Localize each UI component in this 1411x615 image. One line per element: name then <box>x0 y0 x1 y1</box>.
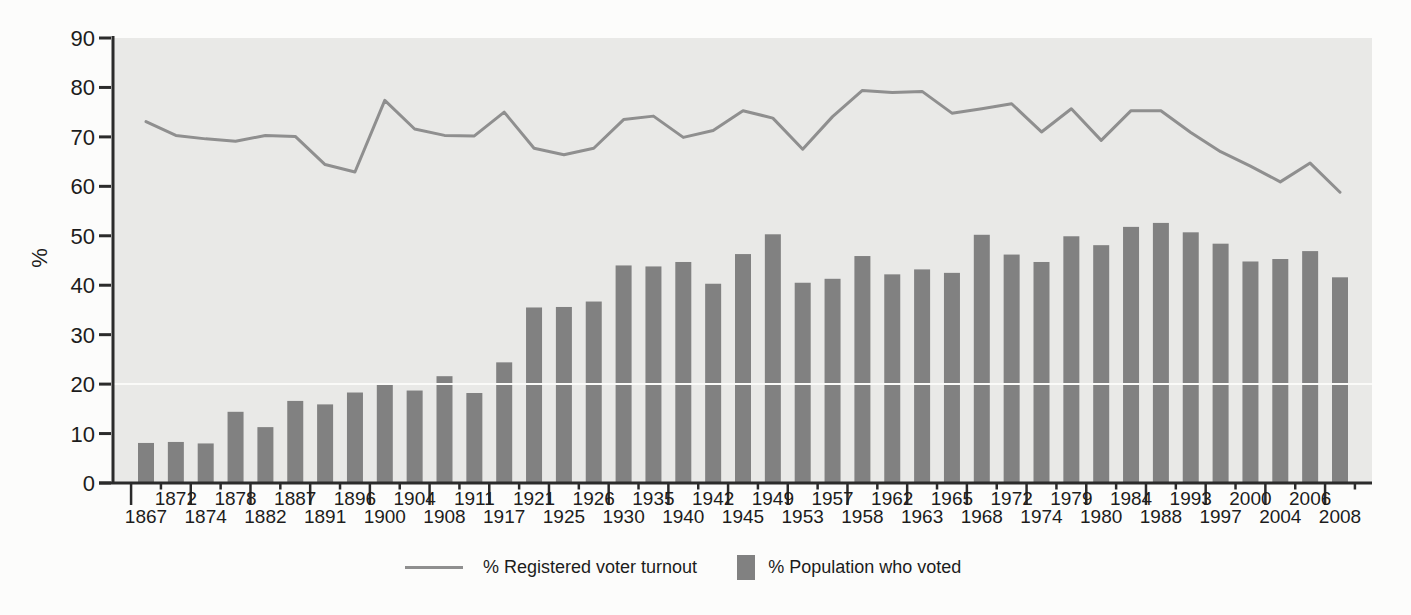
y-tick-label-60: 60 <box>71 174 95 199</box>
turnout-chart-canvas: 0102030405060708090186718721874187818821… <box>0 0 1411 615</box>
x-label-1925: 1925 <box>543 506 585 527</box>
bar-1908 <box>437 376 453 483</box>
bar-1963 <box>914 269 930 483</box>
bar-1945 <box>735 254 751 483</box>
chart-legend: % Registered voter turnout % Population … <box>405 553 961 581</box>
bar-1867 <box>138 443 154 483</box>
bar-1904 <box>407 391 423 483</box>
x-label-1980: 1980 <box>1080 506 1122 527</box>
bar-1958 <box>854 256 870 483</box>
bar-1935 <box>645 266 661 483</box>
y-tick-label-80: 80 <box>71 75 95 100</box>
x-label-1958: 1958 <box>841 506 883 527</box>
bar-1949 <box>765 234 781 483</box>
y-tick-label-70: 70 <box>71 125 95 150</box>
bar-1997 <box>1213 244 1229 483</box>
bar-2008 <box>1332 277 1348 483</box>
bar-1921 <box>526 307 542 483</box>
bar-1968 <box>974 235 990 483</box>
x-label-1988: 1988 <box>1140 506 1182 527</box>
x-label-2004: 2004 <box>1259 506 1302 527</box>
bar-2000 <box>1242 261 1258 483</box>
y-tick-label-50: 50 <box>71 224 95 249</box>
bar-1930 <box>616 265 632 483</box>
x-label-1908: 1908 <box>423 506 465 527</box>
bar-1988 <box>1153 223 1169 483</box>
bar-1874 <box>198 443 214 483</box>
bar-series-swatch-icon <box>737 555 755 580</box>
bar-1980 <box>1093 245 1109 483</box>
bar-1972 <box>1004 255 1020 483</box>
x-label-1874: 1874 <box>185 506 228 527</box>
x-label-1867: 1867 <box>125 506 167 527</box>
bar-1878 <box>228 412 244 483</box>
bar-1953 <box>795 283 811 483</box>
bar-1925 <box>556 307 572 483</box>
bar-1940 <box>675 262 691 483</box>
bar-1887 <box>287 401 303 483</box>
line-series-swatch-icon <box>405 566 463 569</box>
x-label-1963: 1963 <box>901 506 943 527</box>
x-label-2008: 2008 <box>1319 506 1361 527</box>
y-tick-label-0: 0 <box>83 471 95 496</box>
bar-1993 <box>1183 232 1199 483</box>
x-label-1930: 1930 <box>602 506 644 527</box>
voter-turnout-figure: 0102030405060708090186718721874187818821… <box>0 0 1411 615</box>
x-label-1997: 1997 <box>1199 506 1241 527</box>
bar-1974 <box>1034 262 1050 483</box>
y-axis-title: % <box>27 248 52 268</box>
bar-1900 <box>377 385 393 483</box>
bar-series-label: % Population who voted <box>768 557 961 578</box>
y-tick-label-30: 30 <box>71 323 95 348</box>
bar-2004 <box>1272 259 1288 483</box>
y-tick-label-40: 40 <box>71 273 95 298</box>
bar-1979 <box>1063 236 1079 483</box>
x-label-1945: 1945 <box>722 506 764 527</box>
bar-1872 <box>168 442 184 483</box>
bar-1891 <box>317 404 333 483</box>
bar-2006 <box>1302 251 1318 483</box>
y-tick-label-90: 90 <box>71 26 95 51</box>
y-tick-label-20: 20 <box>71 372 95 397</box>
bar-1926 <box>586 302 602 483</box>
bar-1911 <box>466 393 482 483</box>
bar-1896 <box>347 393 363 483</box>
x-label-1891: 1891 <box>304 506 346 527</box>
x-label-1900: 1900 <box>364 506 406 527</box>
x-label-1917: 1917 <box>483 506 525 527</box>
x-label-1882: 1882 <box>244 506 286 527</box>
bar-1965 <box>944 273 960 483</box>
x-label-1953: 1953 <box>782 506 824 527</box>
line-series-label: % Registered voter turnout <box>483 557 697 578</box>
bar-1957 <box>825 279 841 483</box>
x-label-1968: 1968 <box>961 506 1003 527</box>
bar-1882 <box>257 427 273 483</box>
bar-1917 <box>496 362 512 483</box>
bar-1962 <box>884 274 900 483</box>
y-tick-label-10: 10 <box>71 422 95 447</box>
x-label-1974: 1974 <box>1020 506 1063 527</box>
x-label-1940: 1940 <box>662 506 704 527</box>
bar-1984 <box>1123 227 1139 483</box>
